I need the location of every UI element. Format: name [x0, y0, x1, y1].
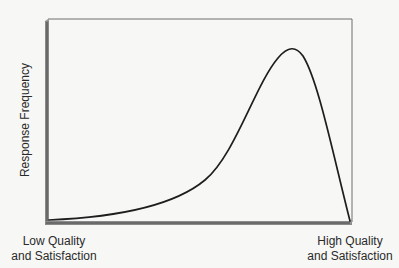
- y-axis-label: Response Frequency: [18, 40, 32, 200]
- x-axis-high-label: High Quality and Satisfaction: [300, 234, 399, 264]
- x-axis-low-label: Low Quality and Satisfaction: [4, 234, 104, 264]
- diagram-canvas: Response Frequency Low Quality and Satis…: [0, 0, 399, 268]
- x-high-line2: and Satisfaction: [300, 249, 399, 264]
- x-low-line1: Low Quality: [4, 234, 104, 249]
- x-low-line2: and Satisfaction: [4, 249, 104, 264]
- x-high-line1: High Quality: [300, 234, 399, 249]
- distribution-curve: [49, 49, 350, 221]
- distribution-plot: [0, 0, 399, 268]
